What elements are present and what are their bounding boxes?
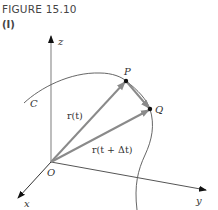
vector-r-t-label: r(t): [67, 110, 83, 121]
curve-label: C: [30, 98, 38, 109]
point-q-label: Q: [155, 104, 163, 115]
x-axis-label: x: [24, 198, 30, 209]
y-axis: [51, 162, 206, 190]
point-p: [124, 79, 128, 83]
point-q: [148, 107, 152, 111]
point-p-label: P: [123, 66, 131, 77]
vector-diagram: z x y O C P Q r(t) r(t + Δt): [0, 0, 218, 210]
origin-label: O: [47, 167, 55, 178]
y-axis-label: y: [195, 195, 202, 206]
vector-delta-r: [126, 81, 149, 108]
vector-r-t-dt-label: r(t + Δt): [92, 144, 132, 155]
z-axis-label: z: [57, 36, 64, 47]
